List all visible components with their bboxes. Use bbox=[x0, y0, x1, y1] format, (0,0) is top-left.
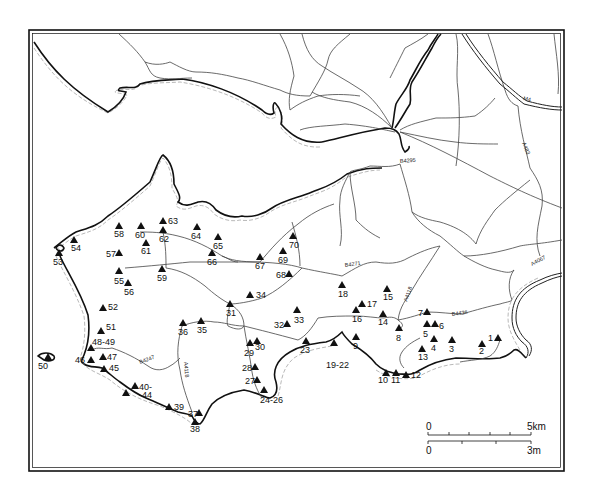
site-marker: 38 bbox=[190, 418, 200, 434]
site-label: 54 bbox=[71, 243, 81, 253]
site-label: 39 bbox=[174, 402, 184, 412]
site-label: 63 bbox=[168, 216, 178, 226]
triangle-site-icon bbox=[97, 327, 105, 334]
site-label: 9 bbox=[353, 341, 358, 351]
scale-mi-start: 0 bbox=[426, 445, 432, 456]
site-marker: 62 bbox=[159, 226, 169, 244]
road-label-a483: A483 bbox=[521, 141, 531, 155]
site-marker: 69 bbox=[278, 247, 288, 265]
site-marker: 48-49 bbox=[87, 337, 115, 351]
site-label: 7 bbox=[418, 308, 423, 318]
site-label: 38 bbox=[190, 424, 200, 434]
site-marker: 14 bbox=[378, 310, 388, 327]
triangle-site-icon bbox=[251, 363, 259, 370]
roads-south bbox=[92, 164, 562, 412]
triangle-site-icon bbox=[430, 335, 438, 342]
site-label: 57 bbox=[106, 249, 116, 259]
site-marker: 33 bbox=[293, 306, 304, 325]
north-coastline bbox=[34, 42, 322, 147]
scale-km-end: 5km bbox=[527, 421, 546, 432]
site-marker: 47 bbox=[99, 352, 117, 362]
site-marker: -44 bbox=[122, 389, 152, 400]
triangle-site-icon bbox=[70, 236, 78, 243]
site-marker: 45 bbox=[100, 363, 119, 373]
site-marker: 17 bbox=[358, 299, 377, 309]
site-label: 33 bbox=[294, 315, 304, 325]
triangle-site-icon bbox=[379, 310, 387, 317]
site-label: 14 bbox=[378, 317, 388, 327]
site-label: 50 bbox=[38, 361, 48, 371]
site-label: 52 bbox=[108, 302, 118, 312]
site-label: 37 bbox=[188, 409, 198, 419]
site-label: 35 bbox=[197, 325, 207, 335]
site-label: 8 bbox=[396, 333, 401, 343]
road-label-a4067: A4067 bbox=[530, 254, 547, 267]
triangle-site-icon bbox=[115, 267, 123, 274]
site-marker: 11 bbox=[391, 369, 400, 385]
site-label: 28 bbox=[242, 363, 252, 373]
river-channel bbox=[322, 34, 441, 152]
site-label: 58 bbox=[114, 229, 124, 239]
site-marker: 53 bbox=[53, 249, 63, 267]
road-label-b4247: B4247 bbox=[138, 354, 155, 365]
site-label: 66 bbox=[207, 257, 217, 267]
scale-km-start: 0 bbox=[426, 421, 432, 432]
site-label: 62 bbox=[159, 234, 169, 244]
triangle-site-icon bbox=[115, 222, 123, 229]
triangle-site-icon bbox=[352, 333, 360, 340]
site-label: 13 bbox=[418, 352, 428, 362]
triangle-site-icon bbox=[260, 386, 268, 393]
road-label-b4295: B4295 bbox=[400, 157, 416, 164]
site-label: 60 bbox=[135, 230, 145, 240]
triangle-site-icon bbox=[431, 320, 439, 327]
triangle-site-icon bbox=[197, 317, 205, 324]
site-label: 56 bbox=[124, 287, 134, 297]
site-marker: 2 bbox=[478, 340, 486, 356]
east-bay-coastline bbox=[508, 270, 562, 358]
map-canvas: M4 A483 B4295 B4271 A4067 A4118 B4436 B4… bbox=[0, 0, 598, 503]
site-label: 17 bbox=[367, 299, 377, 309]
site-label: 67 bbox=[255, 261, 265, 271]
site-marker: 58 bbox=[114, 222, 124, 239]
site-label: 10 bbox=[378, 375, 388, 385]
site-label: 55 bbox=[114, 276, 124, 286]
triangle-site-icon bbox=[418, 345, 426, 352]
site-label: 29 bbox=[244, 348, 254, 358]
site-marker: 35 bbox=[197, 317, 207, 335]
site-marker: 57 bbox=[106, 249, 123, 259]
triangle-site-icon bbox=[279, 247, 287, 254]
scale-bar: 0 5km 0 3m bbox=[426, 421, 546, 456]
site-marker: 19-22 bbox=[326, 339, 349, 370]
site-label: 70 bbox=[289, 240, 299, 250]
triangle-site-icon bbox=[383, 285, 391, 292]
triangle-site-icon bbox=[214, 233, 222, 240]
site-marker: 29 bbox=[244, 339, 254, 358]
triangle-site-icon bbox=[256, 253, 264, 260]
site-marker: 46 bbox=[75, 355, 95, 365]
site-marker: 27 bbox=[245, 376, 261, 386]
site-marker: 59 bbox=[157, 265, 167, 283]
triangle-site-icon bbox=[159, 217, 167, 224]
site-label: 11 bbox=[391, 375, 400, 385]
triangle-site-icon bbox=[448, 336, 456, 343]
triangle-site-icon bbox=[193, 223, 201, 230]
site-label: 18 bbox=[338, 289, 348, 299]
site-label: 34 bbox=[256, 290, 266, 300]
site-marker: 70 bbox=[289, 232, 299, 250]
site-marker: 51 bbox=[97, 322, 116, 334]
site-marker: 32 bbox=[274, 320, 291, 330]
triangle-site-icon bbox=[159, 226, 167, 233]
site-label: 16 bbox=[352, 314, 362, 324]
site-marker: 52 bbox=[99, 302, 118, 312]
site-label: 19-22 bbox=[326, 360, 349, 370]
site-marker: 61 bbox=[141, 239, 151, 256]
site-label: 47 bbox=[107, 352, 117, 362]
site-label: 24-26 bbox=[260, 395, 283, 405]
site-label: 65 bbox=[213, 241, 223, 251]
triangle-site-icon bbox=[179, 319, 187, 326]
site-label: 69 bbox=[278, 255, 288, 265]
site-marker: 56 bbox=[124, 279, 134, 297]
road-label-a4118-north: A4118 bbox=[402, 286, 413, 303]
triangle-site-icon bbox=[87, 356, 95, 363]
site-marker: 23 bbox=[300, 337, 310, 355]
